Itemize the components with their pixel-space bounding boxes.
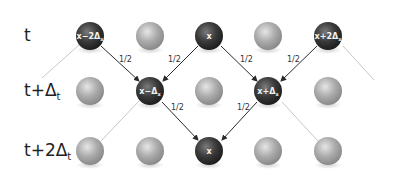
- node-inactive: [254, 22, 282, 50]
- node-inactive: [76, 137, 104, 165]
- svg-text:x−2Δx: x−2Δx: [77, 32, 105, 42]
- svg-text:x: x: [206, 147, 212, 156]
- node-inactive: [314, 77, 342, 105]
- svg-text:x: x: [206, 32, 212, 41]
- prob-label: 1/2: [240, 55, 253, 64]
- row-t-plus-2dt-nodes: x: [76, 137, 342, 169]
- node-inactive: [254, 137, 282, 165]
- node-inactive: [136, 137, 164, 165]
- svg-text:x+2Δx: x+2Δx: [315, 32, 343, 42]
- row-t-nodes: x−2Δx x x+2Δx: [76, 22, 342, 54]
- node-inactive: [195, 77, 223, 105]
- prob-label: 1/2: [287, 55, 300, 64]
- prob-label: 1/2: [171, 103, 184, 112]
- prob-label: 1/2: [168, 55, 181, 64]
- prob-label: 1/2: [237, 103, 250, 112]
- row-t-plus-dt-nodes: x−Δx x+Δx: [76, 77, 342, 109]
- prob-label: 1/2: [119, 55, 132, 64]
- node-inactive: [314, 137, 342, 165]
- node-inactive: [76, 77, 104, 105]
- lattice-svg: 1/2 1/2 1/2 1/2 1/2 1/2 x−2Δx x x+2Δx: [0, 0, 396, 185]
- node-inactive: [136, 22, 164, 50]
- random-walk-diagram: t t+Δt t+2Δt: [0, 0, 396, 185]
